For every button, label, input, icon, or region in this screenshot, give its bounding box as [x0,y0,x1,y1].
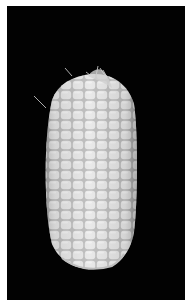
corn-kernels [40,70,140,275]
corn-cob-photo [0,0,196,305]
